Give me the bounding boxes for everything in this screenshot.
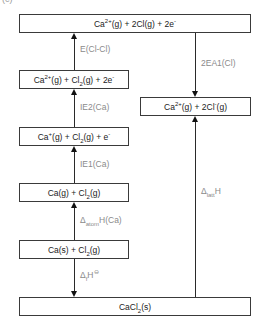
arrow-up-icon bbox=[71, 33, 77, 39]
level-right-text: Ca2+(g) + 2Cl-(g) bbox=[164, 102, 227, 112]
label-atomisation: ΔatomH(Ca) bbox=[80, 215, 122, 225]
level-l4-text: Ca(g) + Cl2(g) bbox=[48, 188, 101, 198]
level-top-text: Ca2+(g) + 2Cl(g) + 2e- bbox=[94, 19, 176, 29]
level-l4-box: Ca(g) + Cl2(g) bbox=[19, 183, 129, 202]
label-ie1: IE1(Ca) bbox=[80, 159, 109, 169]
arrow-up-icon bbox=[192, 116, 198, 122]
level-top-box: Ca2+(g) + 2Cl(g) + 2e- bbox=[19, 14, 251, 33]
level-right-box: Ca2+(g) + 2Cl-(g) bbox=[140, 97, 251, 116]
level-l2-box: Ca2+(g) + Cl2(g) + 2e- bbox=[19, 70, 129, 89]
connector-l5-bottom bbox=[74, 259, 75, 291]
level-bottom-text: CaCl2(s) bbox=[119, 302, 151, 312]
connector-l4-l3 bbox=[74, 152, 75, 183]
label-electron-affinity: 2EA1(Cl) bbox=[201, 58, 235, 68]
arrow-up-icon bbox=[71, 146, 77, 152]
level-l5-box: Ca(s) + Cl2(g) bbox=[19, 240, 129, 259]
level-bottom-box: CaCl2(s) bbox=[19, 297, 251, 316]
connector-l2-top bbox=[74, 38, 75, 70]
label-lattice: ΔlattH bbox=[201, 186, 221, 196]
label-bond-energy: E(Cl-Cl) bbox=[80, 44, 110, 54]
arrow-up-icon bbox=[71, 89, 77, 95]
level-l3-text: Ca+(g) + Cl2(g) + e- bbox=[38, 132, 111, 142]
connector-l3-l2 bbox=[74, 95, 75, 127]
figure-label: (c) bbox=[2, 0, 13, 4]
level-l5-text: Ca(s) + Cl2(g) bbox=[48, 245, 100, 255]
arrow-down-icon bbox=[71, 291, 77, 297]
label-formation: ΔfH⊖ bbox=[80, 270, 99, 280]
connector-bottom-right bbox=[195, 122, 196, 297]
label-ie2: IE2(Ca) bbox=[80, 102, 109, 112]
arrow-down-icon bbox=[192, 91, 198, 97]
level-l3-box: Ca+(g) + Cl2(g) + e- bbox=[19, 127, 129, 146]
connector-top-right bbox=[195, 33, 196, 91]
arrow-up-icon bbox=[71, 202, 77, 208]
connector-l5-l4 bbox=[74, 208, 75, 240]
level-l2-text: Ca2+(g) + Cl2(g) + 2e- bbox=[34, 75, 115, 85]
